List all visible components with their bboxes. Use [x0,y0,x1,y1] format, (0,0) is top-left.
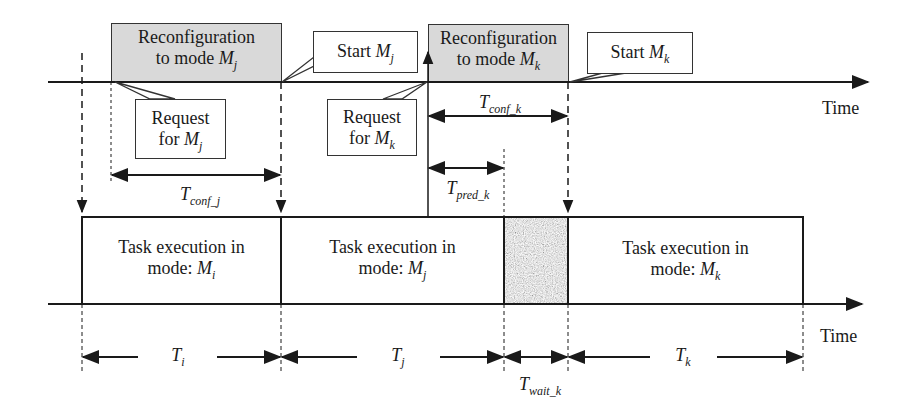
reconfig-mk-label: Reconfiguration to mode Mk [426,28,571,77]
t-conf-k-label: Tconf_k [450,92,550,120]
request-mj-callout: Request for Mj [135,99,226,159]
bottom-time-label: Time [820,326,857,347]
t-wait-k-label: Twait_k [500,374,580,402]
t-conf-j-label: Tconf_j [150,184,250,212]
wait-block [504,218,568,304]
start-mk-callout: Start Mk [587,32,693,74]
request-mk-callout: Request for Mk [327,99,417,156]
task-mi-label: Task execution in mode: Mi [82,237,281,286]
t-j-label: Tj [378,345,418,373]
top-time-label: Time [822,98,859,119]
task-mj-label: Task execution in mode: Mj [290,237,495,286]
task-mk-label: Task execution in mode: Mk [568,238,803,287]
t-k-label: Tk [663,345,703,373]
t-pred-k-label: Tpred_k [428,178,508,206]
reconfig-mj-label: Reconfiguration to mode Mj [111,27,282,76]
start-mj-callout: Start Mj [313,31,418,73]
t-i-label: Ti [158,345,198,373]
